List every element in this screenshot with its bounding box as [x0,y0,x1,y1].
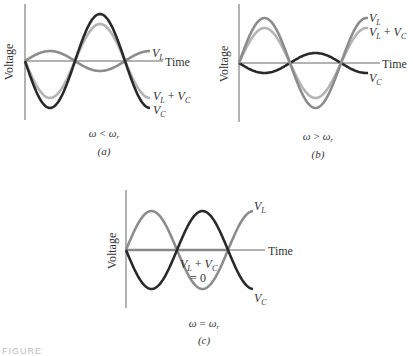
label-vc-b: VC [369,71,382,87]
panel-label-c: (c) [198,334,211,347]
xlabel-b: Time [382,57,407,71]
label-sum-b: VL + VC [369,25,407,41]
xlabel-a: Time [165,55,190,69]
panel-b: Voltage Time VL VL + VC VC ω>ωr (b) [217,4,407,161]
xlabel-c: Time [268,244,293,258]
condition-b: ω>ωr [303,130,334,144]
ylabel-a: Voltage [2,44,16,80]
panel-label-b: (b) [312,148,325,161]
label-vc-c: VC [254,291,267,307]
panel-label-a: (a) [98,145,111,158]
label-vc-a: VC [153,103,166,119]
label-sum-zero-c: = 0 [190,271,206,285]
panel-c: Voltage Time VL VL + VC = 0 VC ω=ωr (c) [105,190,293,347]
label-vl-c: VL [254,199,266,215]
label-vl-a: VL [152,46,164,62]
ylabel-b: Voltage [217,46,231,82]
condition-a: ω<ωr [89,127,120,141]
figure-caption-cut: FIGURE [2,346,42,356]
condition-c: ω=ωr [189,317,220,331]
ylabel-c: Voltage [105,233,119,269]
panel-a: Voltage Time VL VL + VC VC ω<ωr (a) [2,4,191,158]
